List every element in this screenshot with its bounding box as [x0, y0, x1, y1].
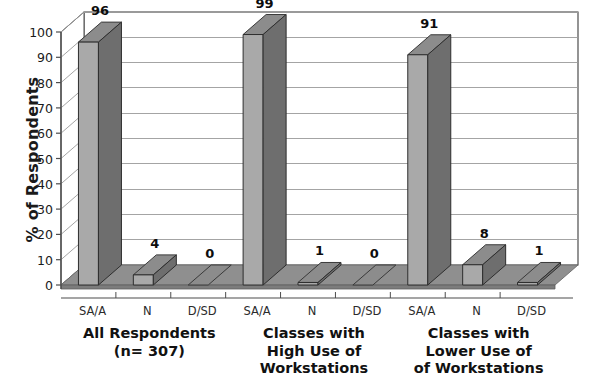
bar-sa-a: [408, 35, 451, 285]
y-axis-tick-label: 40: [5, 176, 53, 191]
x-axis-tick-label: N: [308, 304, 317, 318]
group-label-line: All Respondents: [83, 325, 216, 343]
y-axis-tick-label: 80: [5, 75, 53, 90]
group-label-line: Classes with: [260, 325, 368, 343]
y-axis-tick-label: 50: [5, 151, 53, 166]
bar-chart: % of Respondents 0102030405060708090100 …: [0, 0, 596, 391]
x-axis-tick-label: D/SD: [188, 304, 217, 318]
bar-value-label: 99: [256, 0, 274, 11]
bar-value-label: 4: [150, 236, 159, 251]
x-axis-tick-label: N: [472, 304, 481, 318]
bar-value-label: 91: [420, 16, 438, 31]
group-label-line: High Use of: [260, 343, 368, 361]
x-axis-group-label: Classes withLower Use ofof Workstations: [414, 325, 544, 378]
x-axis-tick-label: SA/A: [79, 304, 106, 318]
x-axis-tick-label: SA/A: [408, 304, 435, 318]
group-label-line: Classes with: [414, 325, 544, 343]
y-axis-tick-label: 10: [5, 252, 53, 267]
bar-value-label: 0: [370, 246, 379, 261]
x-axis-group-label: Classes withHigh Use ofWorkstations: [260, 325, 368, 378]
group-label-line: Lower Use of: [414, 343, 544, 361]
bar-value-label: 0: [205, 246, 214, 261]
x-axis-tick-label: D/SD: [517, 304, 546, 318]
group-label-line: (n= 307): [83, 343, 216, 361]
y-axis-tick-label: 20: [5, 227, 53, 242]
y-axis-tick-label: 90: [5, 50, 53, 65]
bar-sa-a: [243, 15, 286, 285]
bar-value-label: 96: [91, 3, 109, 18]
x-axis-tick-label: D/SD: [352, 304, 381, 318]
bar-value-label: 1: [535, 243, 544, 258]
bar-value-label: 1: [315, 243, 324, 258]
y-axis-tick-label: 0: [5, 278, 53, 293]
bar-sa-a: [78, 22, 121, 285]
x-axis-group-label: All Respondents(n= 307): [83, 325, 216, 360]
y-axis-tick-label: 30: [5, 202, 53, 217]
group-label-line: of Workstations: [414, 360, 544, 378]
y-axis-tick-label: 100: [5, 25, 53, 40]
bar-value-label: 8: [480, 226, 489, 241]
y-axis-tick-label: 70: [5, 100, 53, 115]
x-axis-tick-label: SA/A: [244, 304, 271, 318]
group-label-line: Workstations: [260, 360, 368, 378]
y-axis-tick-label: 60: [5, 126, 53, 141]
x-axis-tick-label: N: [143, 304, 152, 318]
